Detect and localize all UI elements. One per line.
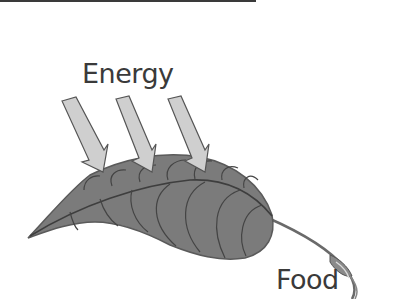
arrow-2 bbox=[116, 96, 156, 172]
energy-label: Energy bbox=[82, 58, 174, 89]
food-label: Food bbox=[276, 264, 339, 295]
energy-arrows bbox=[62, 96, 209, 172]
arrow-1 bbox=[62, 97, 108, 172]
leaf-diagram bbox=[0, 0, 397, 299]
